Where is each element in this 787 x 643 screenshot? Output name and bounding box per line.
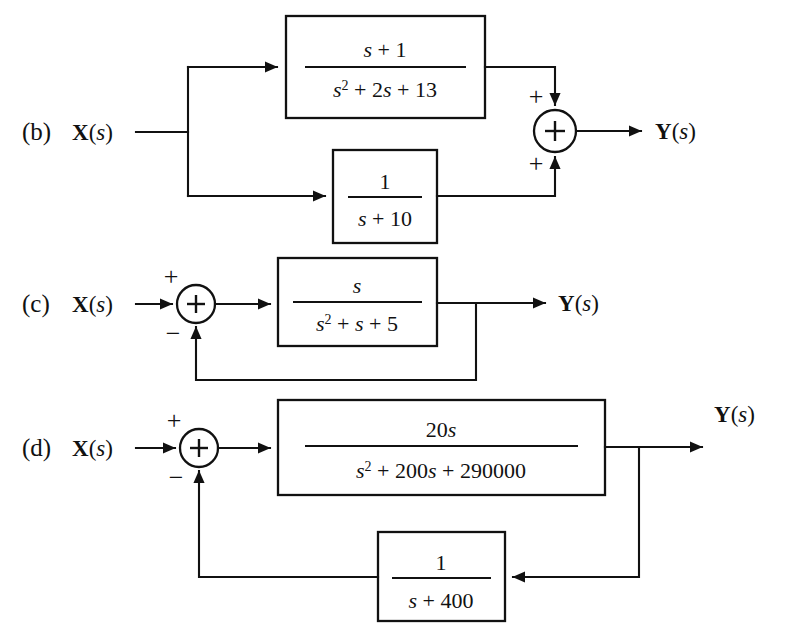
part-b-top-block-numerator: s + 1 <box>364 37 407 62</box>
part-b-label: (b) <box>22 118 51 146</box>
part-d-input-label: X(s) <box>72 436 113 461</box>
part-b-group: (b) X(s) s + 1 s2 + 2s + 13 1 s + 10 + + <box>22 16 696 243</box>
part-c-sign-feedback: − <box>166 319 181 348</box>
part-d-feedback-block-denominator: s + 400 <box>409 588 474 613</box>
part-d-forward-block-numerator: 20s <box>426 417 457 442</box>
part-d-output-label: Y(s) <box>714 402 755 427</box>
part-b-top-output-wire <box>485 67 555 105</box>
part-c-group: (c) X(s) + − s s2 + s + 5 Y(s) <box>22 258 599 380</box>
part-b-sign-top: + <box>529 82 544 111</box>
part-b-bottom-block-numerator: 1 <box>380 169 391 194</box>
part-c-forward-block-numerator: s <box>353 273 362 298</box>
part-b-output-label: Y(s) <box>655 119 696 144</box>
block-diagram-canvas: (b) X(s) s + 1 s2 + 2s + 13 1 s + 10 + + <box>0 0 787 643</box>
part-b-sign-bottom: + <box>529 149 544 178</box>
part-c-output-label: Y(s) <box>558 291 599 316</box>
part-d-forward-block-denominator: s2 + 200s + 290000 <box>356 458 526 483</box>
part-d-label: (d) <box>22 434 51 462</box>
part-c-sign-input: + <box>164 262 179 291</box>
part-d-sign-feedback: − <box>169 463 184 492</box>
part-c-input-label: X(s) <box>72 292 113 317</box>
part-b-input-label: X(s) <box>72 120 113 145</box>
part-d-feedback-block-numerator: 1 <box>436 550 447 575</box>
part-d-sign-input: + <box>167 406 182 435</box>
part-b-bottom-block-denominator: s + 10 <box>358 206 412 231</box>
part-b-branch-node <box>187 131 189 133</box>
block-diagram-figure: (b) X(s) s + 1 s2 + 2s + 13 1 s + 10 + + <box>0 0 787 643</box>
part-b-top-block-denominator: s2 + 2s + 13 <box>333 77 437 102</box>
part-c-label: (c) <box>22 290 50 318</box>
part-d-group: (d) X(s) + − 20s s2 + 200s + 290000 Y(s)… <box>22 400 755 621</box>
